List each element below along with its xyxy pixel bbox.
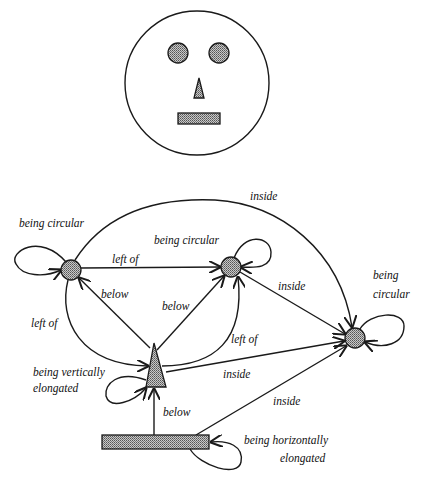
label-edge-below-mouth: below (163, 406, 191, 418)
node-face (345, 328, 365, 348)
label-edge-below-left: below (101, 288, 129, 300)
label-edge-inside-nose: inside (223, 368, 250, 380)
edge-inside-mouth (196, 346, 346, 435)
label-right-eye-prop: being circular (154, 234, 220, 247)
label-nose-prop-1: being vertically (33, 366, 106, 379)
face-drawing (125, 11, 269, 155)
label-mouth-prop-1: being horizontally (244, 434, 329, 447)
face-mouth (178, 113, 220, 124)
label-face-prop-2: circular (373, 288, 410, 300)
label-face-prop-1: being (373, 269, 399, 282)
node-right-eye (221, 257, 241, 277)
edge-inside-nose (166, 341, 344, 372)
edge-below-right (157, 276, 224, 350)
label-left-eye-prop: being circular (19, 217, 85, 230)
face-right-eye (209, 43, 229, 63)
label-edge-left-of-right: left of (231, 333, 259, 346)
edge-left-of-eyes (81, 267, 220, 268)
edge-left-of-right (162, 277, 239, 366)
face-left-eye (168, 43, 188, 63)
diagram-canvas: being circular being circular being circ… (0, 0, 427, 489)
label-edge-inside-right-eye: inside (278, 280, 305, 292)
edge-face-loop (360, 315, 404, 345)
label-edge-left-of-eyes: left of (112, 253, 140, 266)
label-mouth-prop-2: elongated (280, 452, 326, 465)
label-edge-inside-mouth: inside (273, 395, 300, 407)
node-mouth (102, 435, 209, 449)
label-edge-inside-top: inside (250, 190, 277, 202)
label-nose-prop-2: elongated (33, 382, 79, 395)
edge-left-eye-loop (15, 246, 66, 275)
face-outline (125, 11, 269, 155)
label-edge-left-of-left: left of (31, 317, 59, 330)
label-edge-below-right: below (162, 300, 190, 312)
node-left-eye (61, 260, 81, 280)
node-nose (146, 343, 166, 387)
edge-nose-loop (106, 377, 146, 404)
face-nose (194, 78, 204, 98)
